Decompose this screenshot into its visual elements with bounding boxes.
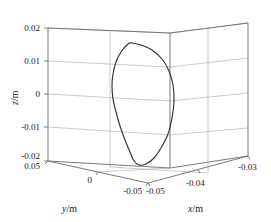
z-axis-title-unit: /m bbox=[9, 91, 20, 102]
z-axis-title-var: z bbox=[9, 101, 20, 105]
y-tick-label-2: -0.05 bbox=[104, 187, 142, 196]
z-tick-label-4: -0.02 bbox=[4, 152, 40, 161]
x-axis-title-unit: /m bbox=[192, 203, 203, 214]
z-tick-label-3: -0.01 bbox=[4, 123, 40, 132]
figure-3d-plot: 0.02 0.01 0 -0.01 -0.02 0.05 0 -0.05 -0.… bbox=[0, 0, 271, 222]
y-axis-title: y/m bbox=[62, 204, 77, 214]
x-tick-label-0: -0.05 bbox=[146, 187, 165, 196]
y-tick-label-0: 0.05 bbox=[4, 162, 40, 171]
z-axis-title: z/m bbox=[10, 91, 20, 105]
x-axis-title: x/m bbox=[188, 204, 203, 214]
y-axis-title-unit: /m bbox=[66, 203, 77, 214]
z-axis-ticks bbox=[44, 28, 48, 161]
z-tick-label-0: 0.02 bbox=[4, 24, 40, 33]
right-wall-grid bbox=[170, 23, 248, 173]
data-curve-trajectory bbox=[112, 43, 174, 165]
y-tick-label-1: 0 bbox=[60, 176, 92, 185]
x-tick-label-1: -0.04 bbox=[186, 179, 205, 188]
axes-frame bbox=[48, 23, 248, 183]
floor-grid bbox=[98, 167, 208, 173]
z-tick-label-1: 0.01 bbox=[4, 57, 40, 66]
left-wall-grid bbox=[48, 28, 170, 167]
x-tick-label-2: -0.03 bbox=[238, 163, 257, 172]
